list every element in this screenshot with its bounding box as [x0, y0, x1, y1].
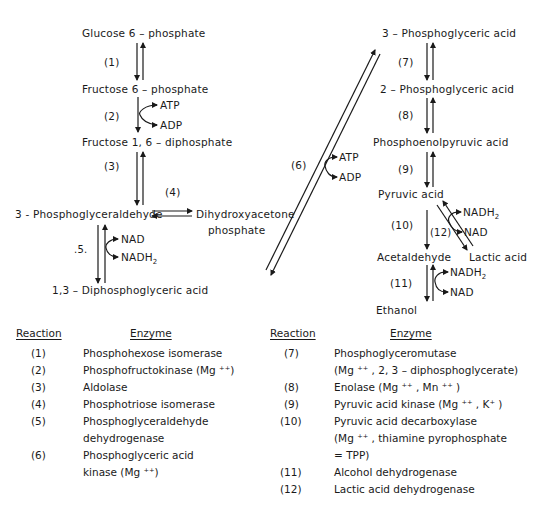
compound-fructose-6-phosphate: Fructose 6 – phosphate — [82, 83, 208, 95]
step-label-7: (7) — [398, 56, 413, 68]
step-label-6: (6) — [291, 159, 306, 171]
compound-acetaldehyde: Acetaldehyde — [377, 251, 451, 263]
cofactor-nadh2-11: NADH2 — [450, 266, 486, 283]
header-enzyme-right: Enzyme — [390, 327, 432, 339]
table-row-enzyme: Phosphoglyceric acid — [83, 449, 194, 461]
table-row-enzyme: Phosphoglyceraldehyde — [83, 415, 208, 427]
step-label-8: (8) — [398, 109, 413, 121]
reversible-arrow-6 — [266, 50, 380, 275]
table-row-enzyme: Phosphotriose isomerase — [83, 398, 215, 410]
reversible-arrow-8 — [427, 98, 433, 133]
header-reaction-right: Reaction — [270, 327, 316, 339]
step-label-9: (9) — [398, 163, 413, 175]
step-label-2: (2) — [104, 110, 119, 122]
step-label-11: (11) — [390, 277, 412, 289]
cofactor-adp: ADP — [160, 119, 182, 131]
step-label-10: (10) — [391, 219, 413, 231]
cofactor-nadh2: NADH2 — [121, 251, 157, 268]
step-label-5: .5. — [74, 244, 87, 256]
table-row-reaction: (9) — [284, 398, 299, 410]
table-row-enzyme: Phosphofructokinase (Mg ⁺⁺) — [83, 364, 234, 376]
compound-glucose-6-phosphate: Glucose 6 – phosphate — [82, 27, 206, 39]
compound-3-phosphoglyceric-acid: 3 – Phosphoglyceric acid — [382, 27, 516, 39]
compound-fructose-1-6-diphosphate: Fructose 1, 6 – diphosphate — [82, 136, 232, 148]
table-row-reaction: (7) — [284, 347, 299, 359]
table-row-reaction: (6) — [31, 449, 46, 461]
cofactor-nad-11: NAD — [450, 286, 474, 298]
table-row-reaction: (4) — [31, 398, 46, 410]
compound-1-3-diphosphoglyceric-acid: 1,3 – Diphosphoglyceric acid — [52, 284, 208, 296]
reversible-arrow-9 — [427, 152, 433, 187]
compound-pyruvic-acid: Pyruvic acid — [378, 188, 444, 200]
header-reaction-left: Reaction — [16, 327, 62, 339]
cofactor-atp-6: ATP — [339, 151, 359, 163]
arrow-2 — [138, 97, 157, 132]
cofactor-adp-6: ADP — [339, 171, 361, 183]
header-enzyme-left: Enzyme — [130, 327, 172, 339]
compound-lactic-acid: Lactic acid — [469, 251, 527, 263]
table-row-reaction: (8) — [284, 381, 299, 393]
reversible-arrow-5 — [98, 225, 118, 283]
compound-phosphoenolpyruvic-acid: Phosphoenolpyruvic acid — [373, 136, 509, 148]
reversible-arrow-1 — [137, 43, 143, 80]
cofactor-atp: ATP — [160, 99, 180, 111]
step-label-4: (4) — [165, 186, 180, 198]
reversible-arrow-3 — [137, 152, 143, 205]
table-row-enzyme-cont: (Mg ⁺⁺ , 2, 3 – diphosphoglycerate) — [334, 364, 518, 376]
table-row-enzyme: Pyruvic acid kinase (Mg ⁺⁺ , K⁺ ) — [334, 398, 502, 410]
table-row-enzyme-cont: dehydrogenase — [83, 432, 164, 444]
table-row-enzyme-cont: kinase (Mg ⁺⁺) — [83, 466, 159, 478]
step-label-3: (3) — [104, 160, 119, 172]
table-row-reaction: (5) — [31, 415, 46, 427]
cofactor-nadh2-12: NADH2 — [463, 206, 499, 223]
compound-3-phosphoglyceraldehyde: 3 - Phosphoglyceraldehyde — [15, 208, 163, 220]
compound-2-phosphoglyceric-acid: 2 – Phosphoglyceric acid — [380, 83, 514, 95]
compound-dihydroxyacetone: Dihydroxyacetone — [196, 208, 295, 220]
table-row-enzyme: Lactic acid dehydrogenase — [334, 483, 475, 495]
compound-dihydroxyacetone-phosphate: phosphate — [208, 224, 265, 236]
table-row-enzyme: Enolase (Mg ⁺⁺ , Mn ⁺⁺ ) — [334, 381, 460, 393]
table-row-enzyme: Phosphoglyceromutase — [334, 347, 457, 359]
cofactor-nad: NAD — [121, 233, 145, 245]
table-row-reaction: (12) — [280, 483, 302, 495]
table-row-reaction: (11) — [280, 466, 302, 478]
table-row-enzyme: Aldolase — [83, 381, 127, 393]
table-row-enzyme: Phosphohexose isomerase — [83, 347, 222, 359]
table-row-reaction: (1) — [31, 347, 46, 359]
step-label-1: (1) — [104, 56, 119, 68]
table-row-reaction: (3) — [31, 381, 46, 393]
table-row-enzyme: Alcohol dehydrogenase — [334, 466, 457, 478]
compound-ethanol: Ethanol — [376, 304, 417, 316]
table-row-reaction: (2) — [31, 364, 46, 376]
reversible-arrow-11 — [427, 265, 448, 301]
reversible-arrow-7 — [427, 43, 433, 80]
table-row-enzyme-cont: (Mg ⁺⁺ , thiamine pyrophosphate — [334, 432, 507, 444]
step-label-12: (12) — [430, 227, 451, 239]
table-row-enzyme-cont: = TPP) — [334, 449, 369, 461]
cofactor-nad-12: NAD — [464, 226, 488, 238]
table-row-reaction: (10) — [280, 415, 302, 427]
table-row-enzyme: Pyruvic acid decarboxylase — [334, 415, 477, 427]
